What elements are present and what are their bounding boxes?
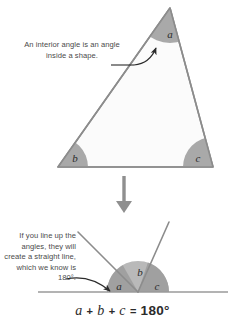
equation-equals: = [130,305,137,317]
equation-plus-2: + [109,305,116,317]
angle-sum-equation: a+b+c=180° [0,303,245,319]
triangle-group: a b c [28,0,243,197]
triangle-shape [58,8,213,167]
equation-term-c: c [119,303,126,318]
straight-label-b: b [137,266,143,278]
triangle-label-a: a [167,28,173,40]
equation-plus-1: + [87,305,94,317]
transition-arrow-head [116,201,132,213]
straight-line-callout: If you line up the angles, they will cre… [2,231,76,284]
equation-term-b: b [97,303,104,318]
triangle-label-c: c [196,152,201,164]
transition-arrow [116,176,132,213]
figure-root: a b c [0,0,245,325]
triangle-label-b: b [72,152,78,164]
straight-label-c: c [155,280,160,292]
interior-angle-callout: An interior angle is an angle inside a s… [14,40,130,61]
angle-ray-left [78,232,138,292]
straight-label-a: a [116,280,122,292]
equation-term-a: a [75,303,82,318]
equation-result: 180° [141,303,170,318]
